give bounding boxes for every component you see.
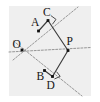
point-label-B: B <box>37 70 45 82</box>
point-label-P: P <box>67 35 73 47</box>
point-dot-D <box>51 75 54 78</box>
point-dot-C <box>47 19 50 22</box>
geometry-figure-root: O A C P B D <box>0 0 100 102</box>
geometry-diagram: O A C P B D <box>0 0 100 102</box>
point-label-C: C <box>43 6 51 18</box>
point-label-O: O <box>13 38 21 50</box>
point-label-D: D <box>47 79 55 91</box>
point-dot-O <box>21 49 24 52</box>
point-label-A: A <box>31 16 40 28</box>
point-dot-P <box>67 49 70 52</box>
point-dot-A <box>37 30 40 33</box>
